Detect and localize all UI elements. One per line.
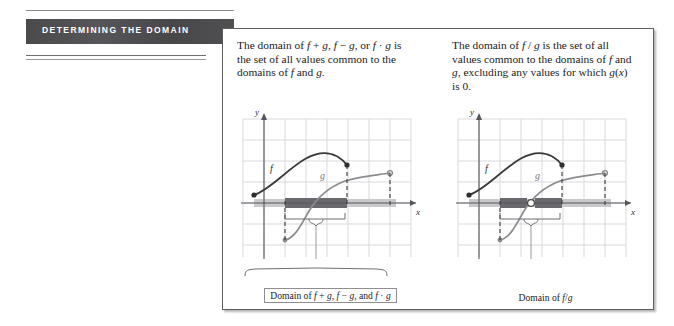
- panel-quotient: The domain of f / g is the set of all va…: [438, 29, 653, 309]
- label-curve-g: g: [535, 170, 540, 181]
- label-curve-f: f: [270, 163, 274, 174]
- figure-caption-sum-text: Domain of f + g, f − g, and f · g: [264, 288, 396, 303]
- y-axis-arrow: [476, 113, 482, 120]
- panel-container: The domain of f + g, f − g, or f · g is …: [223, 29, 653, 309]
- figure-quotient: y x f g: [448, 107, 644, 297]
- endpoint-f-left: [251, 192, 256, 197]
- label-curve-g: g: [320, 170, 325, 181]
- header-rule-top: [26, 10, 234, 11]
- domain-brackets: [285, 213, 345, 219]
- graph-svg-sum: y x f g: [233, 107, 429, 267]
- inner-brace: [309, 219, 323, 226]
- panel-blurb-quotient: The domain of f / g is the set of all va…: [452, 39, 632, 93]
- section-header-band: DETERMINING THE DOMAIN: [26, 19, 234, 44]
- label-x-axis: x: [630, 207, 635, 217]
- content-box: The domain of f + g, f − g, or f · g is …: [222, 28, 654, 310]
- curve-f: [254, 153, 347, 195]
- endpoint-f-left: [466, 192, 471, 197]
- y-axis-arrow: [261, 113, 267, 120]
- domain-brackets: [500, 213, 560, 219]
- figure-sum-difference-product: y x f g: [233, 107, 429, 297]
- curve-f: [469, 153, 562, 195]
- margin-header: DETERMINING THE DOMAIN: [0, 0, 232, 326]
- figure-caption-sum: Domain of f + g, f − g, and f · g: [223, 288, 438, 303]
- label-curve-f: f: [485, 163, 489, 174]
- inner-brace: [524, 219, 538, 226]
- figure-caption-quotient-text: Domain of f/g: [519, 292, 573, 303]
- header-rule-bottom-lower: [26, 59, 206, 60]
- outer-brace-sum: [233, 265, 429, 277]
- header-rule-bottom-upper: [26, 55, 206, 56]
- x-axis-arrow: [410, 200, 416, 206]
- label-y-axis: y: [254, 107, 259, 117]
- figure-caption-quotient: Domain of f/g: [438, 292, 653, 303]
- zero-hole-marker: [528, 200, 535, 207]
- panel-sum-difference-product: The domain of f + g, f − g, or f · g is …: [223, 29, 438, 309]
- panel-blurb-sum: The domain of f + g, f − g, or f · g is …: [237, 39, 417, 80]
- x-axis-arrow: [625, 200, 631, 206]
- label-x-axis: x: [415, 207, 420, 217]
- label-y-axis: y: [469, 107, 474, 117]
- section-header-label: DETERMINING THE DOMAIN: [42, 25, 190, 35]
- graph-svg-quotient: y x f g: [448, 107, 644, 267]
